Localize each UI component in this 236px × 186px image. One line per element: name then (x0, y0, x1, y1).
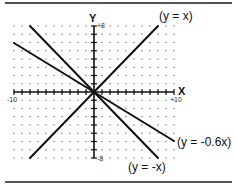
coordinate-plane (0, 0, 236, 186)
y-axis-label: Y (89, 12, 96, 24)
label-y-eq-neg-0-6x: (y = -0.6x) (177, 135, 231, 149)
label-y-eq-x: (y = x) (159, 9, 193, 23)
tick-y-min: -8 (97, 155, 103, 162)
label-y-eq-neg-x: (y = -x) (128, 160, 166, 174)
tick-x-max: +10 (170, 96, 182, 103)
tick-x-min: -10 (7, 96, 17, 103)
tick-y-max: +8 (97, 22, 105, 29)
